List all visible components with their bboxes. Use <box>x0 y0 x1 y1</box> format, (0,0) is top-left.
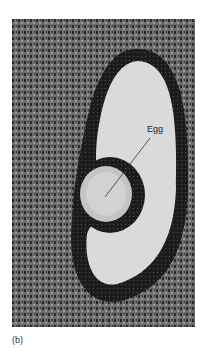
panel-label: (b) <box>12 335 23 345</box>
micrograph-image <box>12 19 195 327</box>
egg-annotation: Egg <box>147 124 163 134</box>
